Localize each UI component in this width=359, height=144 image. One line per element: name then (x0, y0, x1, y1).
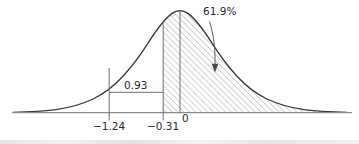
tick-label-zero: 0 (182, 113, 189, 124)
measurement-label-093: 0.93 (124, 80, 147, 91)
normal-distribution-figure: 61.9% 0.93 −1.24 −0.31 0 (0, 0, 359, 144)
distribution-plot (0, 0, 359, 144)
tick-label-neg031: −0.31 (147, 121, 179, 132)
tick-label-neg124: −1.24 (93, 121, 125, 132)
page-edge-artifact (0, 140, 359, 144)
shaded-area-percent-label: 61.9% (203, 6, 236, 17)
